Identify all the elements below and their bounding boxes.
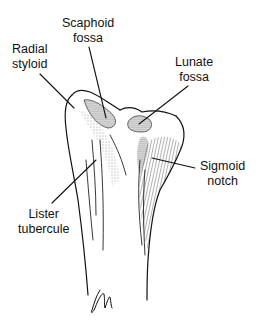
label-lister-tubercule: Lister tubercule <box>18 207 69 237</box>
artist-signature <box>91 290 112 312</box>
label-line: fossa <box>175 70 213 85</box>
label-line: notch <box>200 174 245 189</box>
bone-outline <box>65 90 184 300</box>
label-sigmoid-notch: Sigmoid notch <box>200 159 245 189</box>
label-line: Sigmoid <box>200 159 245 174</box>
shaft-ridges <box>86 135 145 255</box>
leader-lunate-fossa <box>139 86 188 124</box>
label-scaphoid-fossa: Scaphoid fossa <box>62 16 114 46</box>
label-line: tubercule <box>18 222 69 237</box>
label-lunate-fossa: Lunate fossa <box>175 55 213 85</box>
label-line: fossa <box>62 31 114 46</box>
label-line: styloid <box>12 57 47 72</box>
leader-radial-styloid <box>40 74 74 108</box>
label-radial-styloid: Radial styloid <box>12 42 47 72</box>
label-line: Radial <box>12 42 47 57</box>
label-line: Scaphoid <box>62 16 114 31</box>
label-line: Lister <box>18 207 69 222</box>
label-line: Lunate <box>175 55 213 70</box>
anatomy-diagram: Scaphoid fossa Radial styloid Lunate fos… <box>0 0 258 334</box>
